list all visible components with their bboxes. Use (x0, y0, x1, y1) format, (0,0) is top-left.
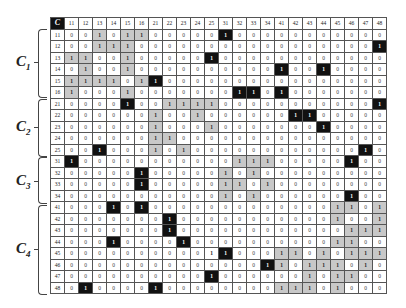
matrix-cell: 0 (261, 213, 275, 225)
matrix-cell: 0 (359, 41, 373, 53)
matrix-cell: 0 (121, 225, 135, 237)
matrix-row: 1100101100000100000000000 (51, 29, 387, 41)
matrix-cell: 0 (205, 259, 219, 271)
matrix-cell: 0 (373, 179, 387, 191)
matrix-row: 4200000001000000000001001 (51, 213, 387, 225)
matrix-cell: 0 (345, 64, 359, 76)
column-header: 14 (107, 18, 121, 30)
matrix-cell: 1 (163, 213, 177, 225)
matrix-cell: 1 (177, 98, 191, 110)
matrix-cell: 0 (149, 236, 163, 248)
matrix-cell: 0 (177, 87, 191, 99)
matrix-cell: 0 (205, 110, 219, 122)
column-header: 22 (163, 18, 177, 30)
matrix-cell: 0 (149, 190, 163, 202)
matrix-cell: 1 (233, 87, 247, 99)
row-header: 32 (51, 167, 65, 179)
matrix-cell: 1 (205, 248, 219, 260)
matrix-cell: 0 (317, 75, 331, 87)
matrix-cell: 0 (205, 167, 219, 179)
matrix-cell: 1 (345, 271, 359, 283)
matrix-cell: 0 (107, 52, 121, 64)
matrix-cell: 0 (79, 167, 93, 179)
matrix-cell: 0 (289, 98, 303, 110)
matrix-cell: 0 (135, 64, 149, 76)
matrix-cell: 0 (219, 282, 233, 294)
matrix-cell: 0 (373, 29, 387, 41)
matrix-cell: 1 (331, 282, 345, 294)
matrix-cell: 0 (331, 52, 345, 64)
row-header: 41 (51, 202, 65, 214)
matrix-cell: 1 (345, 248, 359, 260)
matrix-cell: 1 (191, 98, 205, 110)
cluster-label-c3: C3 (16, 172, 31, 191)
matrix-cell: 0 (331, 87, 345, 99)
matrix-row: 3400000000000101000000100 (51, 190, 387, 202)
matrix-cell: 0 (65, 98, 79, 110)
matrix-row: 4700000000001000000101100 (51, 271, 387, 283)
matrix-cell: 0 (331, 110, 345, 122)
matrix-cell: 0 (135, 213, 149, 225)
matrix-cell: 0 (219, 144, 233, 156)
matrix-cell: 0 (345, 179, 359, 191)
matrix-cell: 0 (107, 64, 121, 76)
matrix-cell: 1 (163, 225, 177, 237)
matrix-cell: 0 (177, 259, 191, 271)
matrix-cell: 1 (219, 190, 233, 202)
row-header: 42 (51, 213, 65, 225)
matrix-cell: 0 (93, 236, 107, 248)
matrix-cell: 0 (79, 121, 93, 133)
matrix-cell: 0 (359, 282, 373, 294)
matrix-cell: 0 (331, 64, 345, 76)
matrix-cell: 0 (303, 41, 317, 53)
matrix-cell: 0 (373, 121, 387, 133)
matrix-cell: 0 (233, 271, 247, 283)
matrix-cell: 0 (233, 236, 247, 248)
matrix-cell: 0 (107, 190, 121, 202)
cluster-incidence-matrix: C 11121314151621222324253132333441424344… (50, 17, 387, 294)
matrix-cell: 0 (65, 213, 79, 225)
column-header: 11 (65, 18, 79, 30)
matrix-cell: 0 (205, 144, 219, 156)
matrix-cell: 0 (331, 248, 345, 260)
matrix-cell: 0 (289, 190, 303, 202)
matrix-cell: 0 (121, 167, 135, 179)
matrix-cell: 0 (261, 98, 275, 110)
matrix-cell: 0 (121, 144, 135, 156)
matrix-row: 2100001001111000000000001 (51, 98, 387, 110)
matrix-cell: 0 (79, 29, 93, 41)
matrix-cell: 0 (177, 41, 191, 53)
matrix-cell: 0 (163, 52, 177, 64)
cluster-bracket-tick-c2 (34, 127, 39, 128)
matrix-cell: 1 (177, 144, 191, 156)
matrix-cell: 0 (233, 133, 247, 145)
column-header: 48 (373, 18, 387, 30)
matrix-cell: 0 (303, 236, 317, 248)
matrix-cell: 0 (107, 110, 121, 122)
matrix-cell: 0 (149, 87, 163, 99)
matrix-cell: 1 (219, 179, 233, 191)
matrix-cell: 0 (219, 64, 233, 76)
matrix-cell: 0 (359, 87, 373, 99)
row-header: 15 (51, 75, 65, 87)
matrix-cell: 0 (331, 179, 345, 191)
matrix-cell: 0 (247, 225, 261, 237)
matrix-cell: 0 (121, 282, 135, 294)
column-header: 31 (219, 18, 233, 30)
matrix-cell: 0 (219, 110, 233, 122)
matrix-cell: 0 (233, 52, 247, 64)
row-header: 14 (51, 64, 65, 76)
matrix-cell: 1 (345, 236, 359, 248)
row-header: 22 (51, 110, 65, 122)
matrix-cell: 0 (219, 236, 233, 248)
matrix-cell: 0 (149, 29, 163, 41)
matrix-cell: 0 (317, 236, 331, 248)
matrix-cell: 0 (163, 144, 177, 156)
matrix-cell: 0 (135, 271, 149, 283)
matrix-cell: 0 (247, 236, 261, 248)
matrix-cell: 0 (261, 110, 275, 122)
matrix-cell: 0 (79, 98, 93, 110)
row-header: 48 (51, 282, 65, 294)
matrix-cell: 0 (79, 110, 93, 122)
matrix-cell: 0 (373, 190, 387, 202)
